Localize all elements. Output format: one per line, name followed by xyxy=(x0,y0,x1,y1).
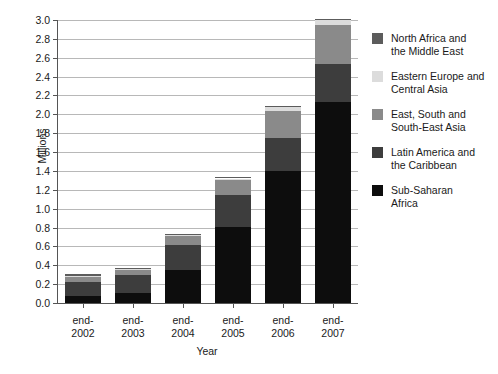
x-tick-label-line: 2007 xyxy=(321,327,344,340)
y-tick-mark xyxy=(53,265,58,266)
legend-label-line: the Middle East xyxy=(391,45,466,58)
x-tick-label-line: 2003 xyxy=(121,327,144,340)
y-tick-mark xyxy=(53,209,58,210)
bar-end-2004[interactable] xyxy=(165,235,201,303)
x-tick-label: end-2002 xyxy=(71,314,94,339)
y-tick-label: 0.2 xyxy=(35,279,50,290)
y-tick-label: 0.6 xyxy=(35,241,50,252)
bar-segment xyxy=(315,20,351,25)
x-tick-label-line: 2002 xyxy=(71,327,94,340)
x-tick-mark xyxy=(83,303,84,308)
bar-segment xyxy=(215,195,251,226)
bar-segment xyxy=(115,275,151,293)
y-tick-label: 1.2 xyxy=(35,185,50,196)
legend-item[interactable]: North Africa andthe Middle East xyxy=(372,32,498,57)
y-tick-mark xyxy=(53,20,58,21)
y-tick-label: 0.0 xyxy=(35,298,50,309)
legend-item[interactable]: Latin America andthe Caribbean xyxy=(372,146,498,171)
grid-line xyxy=(58,284,358,285)
y-tick-mark xyxy=(53,95,58,96)
y-tick-label: 2.2 xyxy=(35,90,50,101)
y-tick-label: 2.4 xyxy=(35,71,50,82)
x-tick-label: end-2004 xyxy=(171,314,194,339)
x-tick-label-line: end- xyxy=(221,314,244,327)
legend-item[interactable]: Eastern Europe andCentral Asia xyxy=(372,70,498,95)
y-tick-label: 1.0 xyxy=(35,203,50,214)
legend-item[interactable]: Sub-SaharanAfrica xyxy=(372,184,498,209)
grid-line xyxy=(58,20,358,21)
y-tick-mark xyxy=(53,152,58,153)
y-tick-mark xyxy=(53,171,58,172)
x-tick-label-line: 2005 xyxy=(221,327,244,340)
legend-label-line: the Caribbean xyxy=(391,159,475,172)
y-tick-mark xyxy=(53,77,58,78)
bar-end-2003[interactable] xyxy=(115,269,151,303)
bar-segment xyxy=(265,171,301,303)
legend-label-line: East, South and xyxy=(391,108,466,121)
legend-swatch-icon xyxy=(372,33,383,44)
x-tick-label: end-2005 xyxy=(221,314,244,339)
x-tick-label-line: end- xyxy=(71,314,94,327)
bar-segment xyxy=(315,102,351,303)
x-tick-label: end-2003 xyxy=(121,314,144,339)
bar-segment xyxy=(315,25,351,65)
legend-label-line: Central Asia xyxy=(391,83,484,96)
x-axis-title: Year xyxy=(57,345,357,357)
bar-segment xyxy=(215,177,251,178)
legend-label-line: Africa xyxy=(391,197,453,210)
legend-swatch-icon xyxy=(372,147,383,158)
y-tick-mark xyxy=(53,39,58,40)
x-tick-mark xyxy=(233,303,234,308)
legend-item[interactable]: East, South andSouth-East Asia xyxy=(372,108,498,133)
bar-segment xyxy=(265,107,301,111)
x-tick-mark xyxy=(133,303,134,308)
grid-line xyxy=(58,95,358,96)
grid-line xyxy=(58,246,358,247)
y-tick-mark xyxy=(53,133,58,134)
y-tick-mark xyxy=(53,190,58,191)
y-tick-label: 3.0 xyxy=(35,15,50,26)
chart-legend: North Africa andthe Middle EastEastern E… xyxy=(372,32,498,222)
legend-label-line: North Africa and xyxy=(391,32,466,45)
y-tick-label: 1.8 xyxy=(35,128,50,139)
bar-segment xyxy=(215,180,251,195)
bar-segment xyxy=(265,111,301,138)
legend-label: Eastern Europe andCentral Asia xyxy=(391,70,484,95)
legend-label-line: South-East Asia xyxy=(391,121,466,134)
y-tick-mark xyxy=(53,228,58,229)
bar-segment xyxy=(265,106,301,107)
grid-line xyxy=(58,133,358,134)
y-tick-label: 0.8 xyxy=(35,222,50,233)
grid-line xyxy=(58,209,358,210)
bar-segment xyxy=(65,296,101,303)
y-tick-label: 2.8 xyxy=(35,34,50,45)
bar-segment xyxy=(65,277,101,283)
y-tick-mark xyxy=(53,284,58,285)
bar-end-2006[interactable] xyxy=(265,106,301,303)
grid-line xyxy=(58,190,358,191)
legend-label-line: Latin America and xyxy=(391,146,475,159)
bar-end-2002[interactable] xyxy=(65,275,101,303)
bar-segment xyxy=(115,270,151,275)
plot-area: 0.00.20.40.60.81.01.21.41.61.82.02.22.42… xyxy=(57,20,358,304)
bar-segment xyxy=(65,274,101,275)
grid-line xyxy=(58,171,358,172)
y-tick-label: 2.6 xyxy=(35,52,50,63)
bar-end-2007[interactable] xyxy=(315,19,351,303)
chart-root: Millions 0.00.20.40.60.81.01.21.41.61.82… xyxy=(0,0,498,374)
x-tick-label: end-2006 xyxy=(271,314,294,339)
bar-segment xyxy=(315,64,351,102)
bar-segment xyxy=(165,234,201,235)
bar-end-2005[interactable] xyxy=(215,178,251,303)
grid-line xyxy=(58,39,358,40)
legend-label: Sub-SaharanAfrica xyxy=(391,184,453,209)
grid-line xyxy=(58,228,358,229)
bar-segment xyxy=(215,179,251,181)
grid-line xyxy=(58,152,358,153)
y-tick-label: 1.6 xyxy=(35,147,50,158)
x-tick-label-line: 2006 xyxy=(271,327,294,340)
x-tick-label-line: 2004 xyxy=(171,327,194,340)
grid-line xyxy=(58,77,358,78)
x-tick-label-line: end- xyxy=(321,314,344,327)
bar-segment xyxy=(165,270,201,303)
